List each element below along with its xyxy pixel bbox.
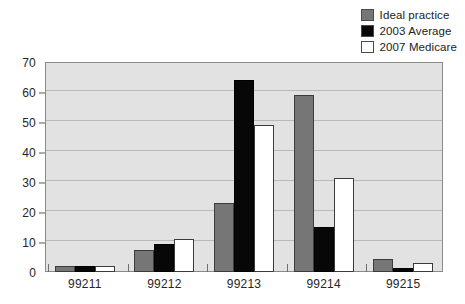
x-axis: 9921199212992139921499215 bbox=[45, 273, 443, 299]
legend-item: Ideal practice bbox=[361, 8, 457, 22]
x-axis-group-tick bbox=[48, 264, 49, 272]
x-axis-tick-label: 99213 bbox=[227, 277, 261, 291]
y-axis-tick-label: 60 bbox=[22, 86, 36, 100]
x-axis-group-tick bbox=[366, 264, 367, 272]
y-axis-tick-label: 10 bbox=[22, 236, 36, 250]
legend-item-label: Ideal practice bbox=[380, 9, 450, 21]
bar bbox=[413, 263, 433, 272]
bar bbox=[314, 227, 334, 272]
x-axis-group-tick bbox=[128, 264, 129, 272]
bar bbox=[294, 95, 314, 272]
y-axis-tick-label: 40 bbox=[22, 146, 36, 160]
y-axis: 010203040506070 bbox=[0, 62, 45, 273]
bars-layer bbox=[45, 62, 443, 272]
y-axis-tick-label: 50 bbox=[22, 116, 36, 130]
bar bbox=[134, 250, 154, 273]
y-axis-tick-label: 0 bbox=[29, 266, 36, 280]
bar bbox=[174, 239, 194, 272]
y-axis-tick-label: 30 bbox=[22, 176, 36, 190]
x-axis-tick-label: 99211 bbox=[68, 277, 101, 291]
y-axis-tick-label: 70 bbox=[22, 56, 36, 70]
legend-swatch-icon bbox=[361, 41, 374, 53]
bar-group bbox=[45, 62, 125, 272]
bar bbox=[234, 80, 254, 272]
legend-swatch-icon bbox=[361, 9, 374, 21]
chart-legend: Ideal practice2003 Average2007 Medicare bbox=[361, 8, 457, 54]
bar bbox=[254, 125, 274, 272]
bar-chart-figure: Ideal practice2003 Average2007 Medicare … bbox=[0, 0, 465, 304]
legend-item: 2007 Medicare bbox=[361, 40, 457, 54]
bar-group bbox=[204, 62, 284, 272]
bar bbox=[373, 259, 393, 273]
legend-swatch-icon bbox=[361, 25, 374, 37]
legend-item: 2003 Average bbox=[361, 24, 457, 38]
bar bbox=[154, 244, 174, 273]
bar bbox=[55, 266, 75, 272]
x-axis-tick-label: 99215 bbox=[386, 277, 420, 291]
legend-item-label: 2003 Average bbox=[380, 25, 452, 37]
bar-group bbox=[125, 62, 205, 272]
bar-group bbox=[284, 62, 364, 272]
bar bbox=[334, 178, 354, 273]
x-axis-group-tick bbox=[287, 264, 288, 272]
bar bbox=[393, 268, 413, 273]
bar bbox=[75, 266, 95, 272]
x-axis-tick-label: 99212 bbox=[147, 277, 181, 291]
x-axis-tick-label: 99214 bbox=[306, 277, 340, 291]
legend-item-label: 2007 Medicare bbox=[380, 41, 457, 53]
bar-group bbox=[363, 62, 443, 272]
bar bbox=[214, 203, 234, 272]
x-axis-group-tick bbox=[207, 264, 208, 272]
bar bbox=[95, 266, 115, 272]
y-axis-tick-label: 20 bbox=[22, 206, 36, 220]
